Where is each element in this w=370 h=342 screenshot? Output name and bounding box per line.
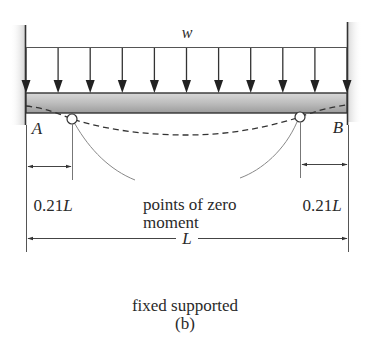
arrow-head-icon <box>246 80 255 93</box>
leader-line-right <box>240 122 297 178</box>
arrow-head-icon <box>150 80 159 93</box>
arrow-head-icon <box>54 80 63 93</box>
span-label: L <box>181 229 191 248</box>
arrow-head-icon <box>86 80 95 93</box>
support-label-a: A <box>31 119 43 138</box>
figure-sublabel: (b) <box>0 315 370 333</box>
arrow-head-icon <box>118 80 127 93</box>
zero-moment-point-right <box>295 112 305 122</box>
beam <box>26 93 347 113</box>
load-arrows <box>22 48 352 93</box>
figure-caption: fixed supported <box>0 297 370 315</box>
arrow-head-icon <box>182 80 191 93</box>
load-label: w <box>182 24 193 41</box>
leader-line-left <box>75 124 135 180</box>
right-offset-label: 0.21L <box>302 196 341 215</box>
support-label-b: B <box>333 118 344 137</box>
fixed-beam-diagram: w A B 0.21L 0.21L points of zero moment … <box>0 0 370 342</box>
annotation-line-1: points of zero <box>143 195 236 214</box>
arrow-head-icon <box>310 80 319 93</box>
arrow-head-icon <box>214 80 223 93</box>
arrow-head-icon <box>278 80 287 93</box>
distributed-load <box>22 48 352 94</box>
left-fixed-support <box>10 25 26 125</box>
right-fixed-support <box>347 22 362 125</box>
zero-moment-point-left <box>67 114 77 124</box>
left-offset-label: 0.21L <box>33 196 72 215</box>
